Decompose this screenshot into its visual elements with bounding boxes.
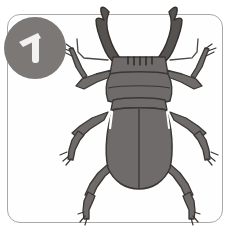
pronotum-icon [106,72,171,110]
middle-left-leg-icon [60,112,108,165]
hind-right-leg-icon [166,165,200,225]
elytra-icon [106,108,172,189]
middle-right-leg-icon [170,112,218,165]
step-number-badge: 1 [4,17,66,79]
right-mandible-icon [156,7,182,63]
illustration-card: 1 [0,0,233,234]
left-mandible-icon [96,7,122,63]
hind-left-leg-icon [78,165,112,225]
